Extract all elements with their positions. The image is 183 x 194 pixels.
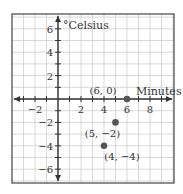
x-axis-left-arrow-icon (14, 96, 20, 102)
y-tick-label: 2 (47, 71, 53, 82)
data-point (101, 143, 108, 150)
x-axis-label: Minutes (136, 85, 182, 98)
y-tick-label: 6 (47, 24, 53, 35)
x-tick-label: −2 (28, 104, 43, 115)
x-tick-label: 6 (124, 104, 130, 115)
data-points: (6, 0)(5, −2)(4, −4) (85, 85, 140, 162)
y-tick-label: −2 (38, 117, 53, 128)
data-point (112, 119, 119, 126)
y-tick-label: −6 (38, 164, 53, 175)
data-point (124, 96, 131, 103)
data-point-label: (6, 0) (90, 85, 117, 96)
x-tick-label: 8 (147, 104, 153, 115)
y-tick-label: −4 (38, 141, 53, 152)
x-tick-label: 2 (78, 104, 84, 115)
data-point-label: (5, −2) (85, 128, 120, 139)
y-axis-down-arrow-icon (55, 175, 61, 181)
x-tick-label: 4 (101, 104, 107, 115)
data-point-label: (4, −4) (104, 151, 139, 162)
y-tick-label: 4 (47, 47, 53, 58)
y-axis-label: °Celsius (63, 19, 109, 32)
coordinate-plane: −22468642−2−4−6 °Celsius Minutes (6, 0)(… (0, 0, 183, 194)
